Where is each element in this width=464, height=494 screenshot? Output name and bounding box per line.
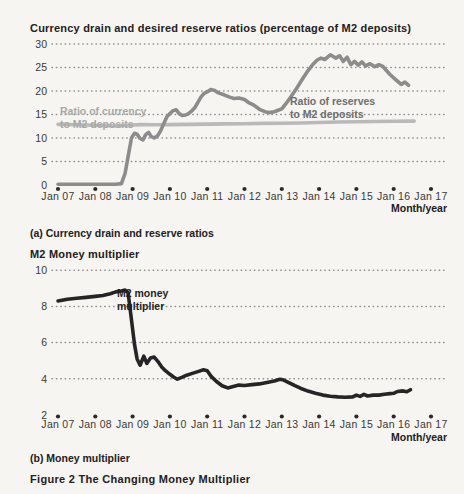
x-tick-label-b-4: Jan 11 (191, 418, 224, 430)
series-label-b-0: M2 moneymultiplier (117, 287, 169, 312)
y-tick-label-a-10: 10 (35, 132, 47, 144)
x-tick-label-b-8: Jan 15 (340, 418, 373, 430)
x-tick-label-a-4: Jan 11 (191, 190, 224, 202)
x-tick-label-a-0: Jan 07 (41, 190, 74, 202)
y-tick-label-b-6: 6 (41, 336, 47, 348)
y-tick-label-a-25: 25 (35, 61, 47, 73)
chart-a-title: Currency drain and desired reserve ratio… (30, 22, 411, 34)
x-tick-label-b-7: Jan 14 (302, 418, 335, 430)
x-tick-label-b-3: Jan 10 (153, 418, 186, 430)
x-tick-label-a-3: Jan 10 (153, 190, 186, 202)
x-axis-title-a: Month/year (391, 202, 447, 214)
panel-a-label: (a) Currency drain and reserve ratios (30, 227, 214, 239)
x-tick-label-a-9: Jan 16 (377, 190, 410, 202)
x-axis-title-b: Month/year (391, 431, 447, 443)
figure-canvas: 051015202530Jan 07Jan 08Jan 09Jan 10Jan … (0, 0, 464, 494)
x-tick-label-b-0: Jan 07 (41, 418, 74, 430)
x-tick-label-b-2: Jan 09 (116, 418, 149, 430)
x-tick-label-a-2: Jan 09 (116, 190, 149, 202)
y-tick-label-b-10: 10 (35, 264, 47, 276)
y-tick-label-a-5: 5 (41, 155, 47, 167)
x-tick-label-a-1: Jan 08 (79, 190, 112, 202)
y-tick-label-a-15: 15 (35, 108, 47, 120)
x-tick-label-b-5: Jan 12 (228, 418, 261, 430)
x-tick-label-a-10: Jan 17 (414, 190, 447, 202)
series-label-a-1: Ratio of reservesto M2 deposits (290, 95, 375, 120)
y-tick-label-b-4: 4 (41, 373, 47, 385)
y-tick-label-a-0: 0 (41, 179, 47, 191)
x-tick-label-a-8: Jan 15 (340, 190, 373, 202)
panel-b-label: (b) Money multiplier (30, 452, 130, 464)
x-tick-label-b-1: Jan 08 (79, 418, 112, 430)
x-tick-label-a-7: Jan 14 (302, 190, 335, 202)
x-tick-label-b-9: Jan 16 (377, 418, 410, 430)
y-tick-label-a-20: 20 (35, 85, 47, 97)
y-tick-label-a-30: 30 (35, 38, 47, 50)
x-tick-label-b-10: Jan 17 (414, 418, 447, 430)
x-tick-label-a-6: Jan 13 (265, 190, 298, 202)
figure-caption: Figure 2 The Changing Money Multiplier (30, 473, 250, 485)
y-tick-label-b-8: 8 (41, 300, 47, 312)
figure-page: 051015202530Jan 07Jan 08Jan 09Jan 10Jan … (0, 0, 464, 494)
chart-b-title: M2 Money multiplier (30, 248, 140, 260)
x-tick-label-b-6: Jan 13 (265, 418, 298, 430)
series-line-b-0 (58, 290, 411, 397)
x-tick-label-a-5: Jan 12 (228, 190, 261, 202)
